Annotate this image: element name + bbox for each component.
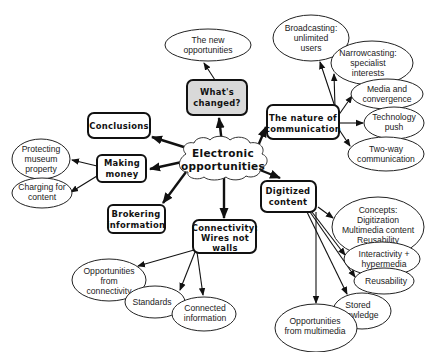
node-digitized[interactable]: Digitized content [261,181,316,212]
label: content [269,197,307,207]
label: specialist [350,58,386,68]
label: Wires not [201,233,249,243]
edge-digitized-concepts [318,207,333,218]
label: Narrowcasting: [339,48,396,58]
label: from [100,276,117,286]
label: information [107,220,166,230]
label: Charging for [18,182,65,192]
label: opportunities [181,160,265,172]
edge-conn-standards [180,252,195,290]
label: convergence [362,94,411,104]
edge-comm-media [338,96,352,116]
label: Technology [372,112,416,122]
label: Protecting [22,144,61,154]
label: opportunities [183,45,232,55]
label: connectivity [87,286,133,296]
label: museum [25,154,58,164]
label: Multimedia content [342,225,415,235]
label: information [184,313,227,323]
edge-whats-changed-new-opps [204,63,215,80]
node-protecting[interactable]: Protecting museum property [12,139,70,179]
label: Standards [132,297,171,307]
edge-comm-narrowcasting [334,74,335,107]
label: The new [192,35,226,45]
label: money [105,169,138,179]
label: What's [200,87,234,97]
label: communication [265,124,341,134]
label: property [25,164,57,174]
node-opps-multimedia[interactable]: Opportunities from multimedia [275,304,357,352]
label: Brokering [112,209,161,219]
label: communication [357,154,415,164]
node-tech-push[interactable]: Technology push [364,107,424,139]
label: Digitized [266,186,311,196]
edge-conn-opps [138,250,194,266]
label: Two-way [369,144,404,154]
node-conclusions[interactable]: Conclusions [88,113,150,138]
label: hypermedia [362,259,407,269]
label: Opportunities [83,266,134,276]
node-narrowcasting[interactable]: Narrowcasting: specialist interests [331,41,413,85]
edge-money-protecting [72,160,97,166]
node-nature-comm[interactable]: The nature of communication [265,105,341,139]
label: push [385,122,404,132]
label: Reusability [365,276,408,286]
label: Concepts: [359,205,398,215]
node-center-cloud[interactable]: Electronic opportunities [179,136,267,180]
node-brokering[interactable]: Brokering information [107,205,166,233]
label: Connected [184,303,226,313]
node-new-opps[interactable]: The new opportunities [165,29,251,61]
node-connectivity[interactable]: Connectivity: Wires not walls [192,220,258,253]
node-charging[interactable]: Charging for content [12,178,72,208]
label: users [300,43,321,53]
label: content [28,192,57,202]
node-connected-info[interactable]: Connected information [172,297,236,331]
label: Media and [367,84,407,94]
edge-center-conclusions [152,137,187,148]
node-whats-changed[interactable]: What's changed? [187,80,247,115]
edge-center-brokering [163,172,186,203]
concept-map: The new opportunities Protecting museum … [0,0,434,352]
node-two-way[interactable]: Two-way communication [348,137,424,171]
label: changed? [193,98,240,108]
node-reusability[interactable]: Reusability [354,268,414,294]
label: walls [212,243,238,253]
node-making-money[interactable]: Making money [97,155,146,182]
label: Opportunities [289,316,340,326]
label: Broadcasting: [285,23,338,33]
label: Digitization [357,215,399,225]
label: from multimedia [284,326,345,336]
label: interests [352,68,384,78]
label: Connectivity: [192,223,258,233]
label: Making [104,158,140,168]
label: unlimited [294,33,329,43]
label: Electronic [192,147,254,159]
label: Conclusions [89,121,149,131]
edge-money-charging [71,176,97,192]
node-media-convergence[interactable]: Media and convergence [351,79,423,109]
label: The nature of [269,113,337,123]
label: Stored [345,300,371,310]
edge-center-making-money [150,162,182,169]
edge-conn-connected-info [197,252,203,295]
label: Interactivity + [359,249,410,259]
